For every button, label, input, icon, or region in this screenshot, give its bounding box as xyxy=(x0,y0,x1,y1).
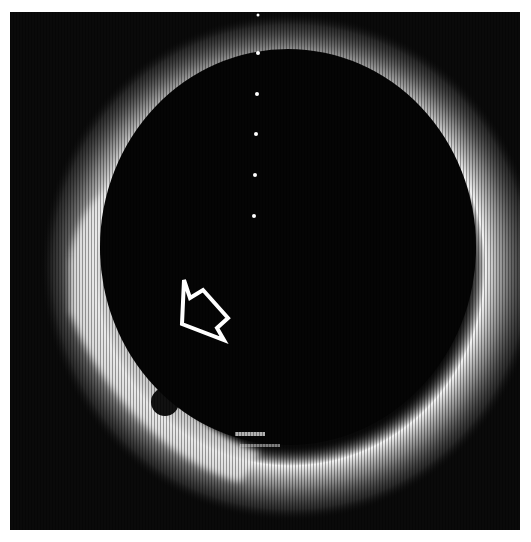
ultrasound-image xyxy=(10,12,520,530)
scan-texture xyxy=(10,12,520,530)
ultrasound-scan xyxy=(10,12,520,530)
